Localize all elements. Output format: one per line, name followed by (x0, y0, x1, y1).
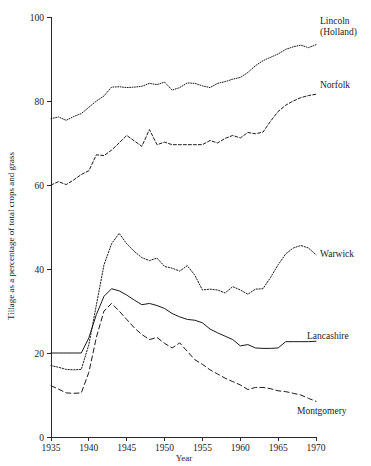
series-label-lincoln-line2: (Holland) (320, 27, 357, 38)
chart-container: 020406080100 193519401945195019551960196… (0, 0, 371, 466)
series-label-lincoln-line1: Lincoln (320, 16, 350, 26)
series-line-warwick (51, 233, 316, 369)
x-axis-ticks (51, 437, 316, 441)
x-tick-label: 1950 (155, 443, 174, 453)
x-axis-title: Year (176, 453, 193, 463)
series-label-warwick: Warwick (320, 249, 354, 259)
y-tick-label: 40 (35, 265, 45, 275)
x-tick-label: 1935 (42, 443, 61, 453)
y-tick-label: 80 (35, 97, 45, 107)
x-tick-label: 1940 (79, 443, 98, 453)
x-axis-tick-labels: 19351940194519501955196019651970 (42, 443, 326, 453)
y-axis-tick-labels: 020406080100 (30, 13, 45, 443)
x-tick-label: 1965 (269, 443, 288, 453)
y-axis-ticks (47, 17, 51, 437)
x-tick-label: 1945 (117, 443, 136, 453)
line-chart: 020406080100 193519401945195019551960196… (0, 0, 371, 466)
series-line-lincoln-holland (51, 45, 316, 121)
series-label-norfolk: Norfolk (320, 80, 350, 90)
series-label-montgomery: Montgomery (297, 406, 347, 416)
series-paths (51, 45, 316, 402)
y-tick-label: 100 (30, 13, 45, 23)
x-tick-label: 1970 (307, 443, 326, 453)
x-tick-label: 1960 (231, 443, 250, 453)
y-tick-label: 60 (35, 181, 45, 191)
series-label-lancashire: Lancashire (307, 331, 349, 341)
x-tick-label: 1955 (193, 443, 212, 453)
y-tick-label: 0 (39, 433, 44, 443)
series-line-lancashire (51, 289, 316, 353)
y-axis-title: Tillage as a percentage of total crops a… (6, 151, 16, 320)
y-tick-label: 20 (35, 349, 45, 359)
series-line-norfolk (51, 94, 316, 185)
